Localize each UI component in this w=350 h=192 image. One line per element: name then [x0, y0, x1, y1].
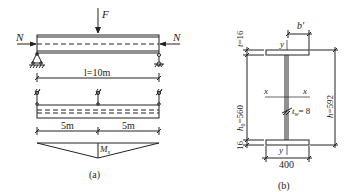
moment-label: Mx: [99, 144, 111, 155]
lateral-support-right-icon: [156, 89, 162, 105]
caption-a: (a): [89, 169, 100, 181]
segment-dimensions: [35, 127, 161, 135]
load-arrow-icon: [96, 8, 101, 33]
load-label: F: [101, 8, 109, 20]
total-height-label: h=592: [325, 95, 335, 118]
segment-right-label: 5m: [122, 120, 135, 131]
lateral-support-left-icon: [34, 89, 40, 105]
b-prime-dimension: [286, 30, 312, 50]
beam-plan: [37, 105, 159, 118]
web-height-label: h0=560: [235, 104, 246, 131]
left-height-dimensions: [243, 47, 264, 148]
flange-width-label: b': [297, 20, 305, 31]
axis-x-left: x: [263, 86, 268, 96]
i-section: [266, 50, 309, 145]
web-thickness-leader: [282, 108, 292, 115]
axial-label-left: N: [15, 31, 24, 43]
caption-b: (b): [278, 180, 290, 192]
beam-elevation: [37, 35, 159, 53]
axial-label-right: N: [172, 31, 181, 43]
span-label: l=10m: [84, 67, 110, 78]
web-thickness-label: tw= 8: [292, 106, 311, 117]
bottom-flange-thickness-label: 16: [235, 141, 245, 151]
axis-y-bottom: y: [278, 145, 283, 155]
axis-y-top: y: [279, 39, 284, 49]
axis-x-right: x: [302, 86, 307, 96]
roller-support-icon: [154, 54, 164, 68]
moment-diagram: [37, 143, 159, 158]
top-flange-thickness-label: t=16: [235, 30, 245, 47]
diagram-canvas: F N N l=10m 5m 5m Mx (a) b' y x x y tw= …: [0, 0, 350, 192]
segment-left-label: 5m: [61, 120, 74, 131]
lateral-support-mid-icon: [95, 89, 101, 105]
lateral-supports: [34, 89, 162, 105]
pin-support-icon: [29, 53, 45, 68]
bottom-width-label: 400: [279, 159, 294, 170]
